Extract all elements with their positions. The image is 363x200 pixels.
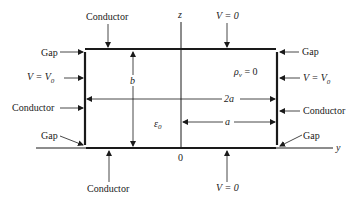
- origin-label: 0: [178, 152, 183, 163]
- permittivity-label: ε0: [154, 118, 162, 131]
- gap-bottom-left-arrow: [60, 136, 83, 145]
- right-voltage-label: V = V0: [303, 72, 331, 86]
- charge-density-label: ρv = 0: [233, 66, 258, 79]
- left-voltage-label: V = V0: [27, 71, 55, 85]
- gap-bottom-right-label: Gap: [303, 130, 320, 141]
- bottom-voltage-label: V = 0: [216, 182, 239, 193]
- dimension-b-label: b: [130, 75, 135, 86]
- gap-bottom-left-label: Gap: [41, 130, 58, 141]
- dimension-a-label: a: [225, 116, 230, 127]
- diagram-canvas: z y 0 Conductor V = 0 Gap V = V0 Conduct…: [0, 0, 363, 200]
- dimension-2a-label: 2a: [224, 93, 234, 104]
- y-axis-label: y: [335, 142, 341, 153]
- right-conductor-label: Conductor: [303, 105, 346, 116]
- top-voltage-label: V = 0: [216, 10, 239, 21]
- gap-bottom-right-arrow: [280, 135, 302, 146]
- top-conductor-label: Conductor: [86, 11, 129, 22]
- bottom-conductor-label: Conductor: [87, 183, 130, 194]
- gap-top-left-label: Gap: [41, 47, 58, 58]
- gap-top-right-label: Gap: [302, 46, 319, 57]
- left-conductor-label: Conductor: [12, 102, 55, 113]
- z-axis-label: z: [177, 9, 182, 20]
